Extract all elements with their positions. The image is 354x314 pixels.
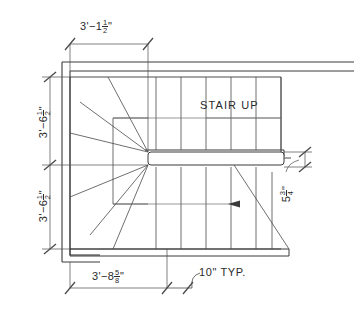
dim-right — [284, 147, 312, 172]
winder-line — [90, 165, 148, 235]
dim-left-lower-denominator: 2 — [44, 194, 52, 200]
winder-line — [70, 133, 148, 152]
dim-left-upper — [42, 72, 148, 170]
dim-right-inches: 5 — [280, 196, 292, 203]
up-direction-arrow — [228, 201, 240, 208]
dim-top-unit: " — [108, 20, 112, 32]
dim-bottom-denominator: 8 — [114, 277, 120, 285]
winder-well-outline — [113, 118, 148, 204]
dim-left-upper-dash: − — [37, 122, 49, 129]
tread-typ-label: 10" TYP. — [199, 266, 246, 278]
dim-bottom-dash: − — [101, 270, 108, 282]
dim-left-upper-fraction: 12 — [36, 110, 52, 116]
dim-left-lower-inches: 6 — [37, 200, 49, 207]
dim-left-lower-text: 3'−612" — [36, 158, 52, 254]
dim-top-text: 3'−112" — [80, 19, 112, 35]
dim-bottom-fraction: 58 — [114, 269, 120, 285]
dim-top-dash: − — [89, 20, 96, 32]
dim-bottom-unit: " — [120, 270, 124, 282]
dim-top-feet: 3' — [80, 20, 89, 32]
winder-treads-upper — [70, 77, 148, 152]
dim-left-lower-fraction: 12 — [36, 194, 52, 200]
dim-right-fraction: 34 — [279, 190, 295, 196]
drawing-sheet: STAIR UP 3'−112" 3'−612" 3'−612" 3'−858"… — [0, 0, 354, 314]
upper-flight-outline — [70, 77, 281, 154]
dim-bottom-text: 3'−858" — [92, 269, 124, 285]
bottom-landing-bar — [70, 249, 289, 256]
dim-top-denominator: 2 — [102, 27, 108, 35]
dim-left-upper-denominator: 2 — [44, 110, 52, 116]
upper-flight-treads — [156, 77, 281, 150]
dim-left-upper-inches: 6 — [37, 116, 49, 123]
winder-line — [80, 102, 148, 152]
winder-treads-lower — [70, 165, 148, 249]
dim-top-fraction: 12 — [102, 19, 108, 35]
stair-plan-drawing — [0, 0, 354, 314]
tread-typ-callout-leader — [167, 273, 200, 294]
center-stringer-handrail — [148, 152, 284, 165]
dim-right-denominator: 4 — [287, 190, 295, 196]
dim-left-lower-feet: 3' — [37, 213, 49, 222]
dim-left-upper-text: 3'−612" — [36, 74, 52, 170]
winder-line — [108, 77, 148, 152]
dim-bottom-feet: 3' — [92, 270, 101, 282]
dim-right-text: 534" — [279, 170, 295, 218]
dim-left-lower-dash: − — [37, 206, 49, 213]
lower-flight-treads — [156, 167, 272, 249]
stair-up-label: STAIR UP — [200, 99, 259, 111]
dim-left-upper-feet: 3' — [37, 129, 49, 138]
